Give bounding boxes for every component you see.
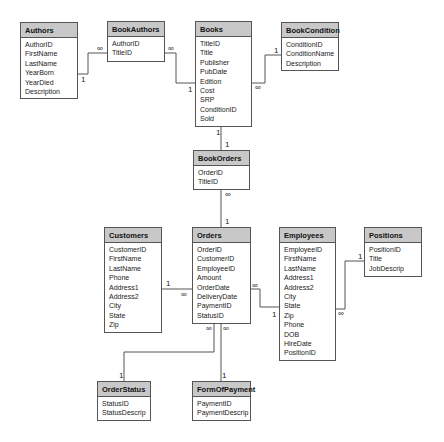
- cardinality-many: ∞: [338, 310, 344, 318]
- table-orders[interactable]: OrdersOrderIDCustomerIDEmployeeIDAmountO…: [192, 227, 251, 324]
- field: City: [109, 301, 157, 310]
- table-positions[interactable]: PositionsPositionIDTitleJobDescrip: [364, 227, 422, 277]
- link-authors-bookauthors: [78, 53, 107, 74]
- field: DeliveryDate: [197, 292, 246, 301]
- table-authors[interactable]: AuthorsAuthorIDFirstNameLastNameYearBorn…: [20, 22, 78, 99]
- field: Zip: [109, 320, 157, 329]
- table-fields: OrderIDCustomerIDEmployeeIDAmountOrderDa…: [193, 243, 250, 322]
- field: FirstName: [109, 254, 157, 263]
- table-header: BookAuthors: [108, 22, 164, 37]
- cardinality-one: 1: [222, 372, 226, 380]
- field: Title: [369, 254, 417, 263]
- cardinality-many: ∞: [252, 282, 258, 290]
- table-fields: AuthorIDTitleID: [108, 37, 164, 60]
- field: Address2: [284, 283, 331, 292]
- link-books-bookcondition: [252, 55, 281, 83]
- field: PositionID: [284, 348, 331, 357]
- table-fields: EmployeeIDFirstNameLastNameAddress1Addre…: [280, 243, 335, 360]
- field: OrderID: [198, 168, 245, 177]
- table-employees[interactable]: EmployeesEmployeeIDFirstNameLastNameAddr…: [279, 227, 336, 361]
- field: Title: [200, 48, 247, 57]
- field: StatusDescrip: [102, 408, 146, 417]
- table-bookauthors[interactable]: BookAuthorsAuthorIDTitleID: [107, 21, 165, 62]
- cardinality-one: 1: [119, 372, 123, 380]
- field: HireDate: [284, 339, 331, 348]
- field: AuthorID: [25, 40, 73, 49]
- field: State: [109, 311, 157, 320]
- field: OrderID: [197, 245, 246, 254]
- table-header: FormOfPayment: [193, 382, 250, 397]
- link-orders-employees: [251, 289, 279, 307]
- field: Address1: [284, 273, 331, 282]
- cardinality-many: ∞: [223, 325, 229, 333]
- cardinality-one: 1: [274, 47, 278, 55]
- table-fields: OrderIDTitleID: [194, 166, 249, 189]
- field: StatusID: [197, 311, 246, 320]
- cardinality-one: 1: [225, 218, 229, 226]
- cardinality-many: ∞: [255, 84, 261, 92]
- field: StatusID: [102, 399, 146, 408]
- field: ConditionID: [286, 40, 334, 49]
- table-customers[interactable]: CustomersCustomerIDFirstNameLastNamePhon…: [104, 227, 162, 333]
- table-bookcondition[interactable]: BookConditionConditionIDConditionNameDes…: [281, 22, 339, 71]
- field: State: [284, 301, 331, 310]
- field: YearBorn: [25, 68, 73, 77]
- field: Publisher: [200, 58, 247, 67]
- field: Phone: [284, 320, 331, 329]
- field: Description: [286, 59, 334, 68]
- table-header: Customers: [105, 228, 161, 243]
- table-fields: TitleIDTitlePublisherPubDateEditionCostS…: [196, 37, 251, 126]
- field: Address1: [109, 283, 157, 292]
- field: TitleID: [112, 48, 160, 57]
- table-formofpayment[interactable]: FormOfPaymentPaymentIDPaymentDescrip: [192, 381, 251, 421]
- field: TitleID: [198, 177, 245, 186]
- cardinality-one: 1: [216, 129, 220, 137]
- field: SRP: [200, 95, 247, 104]
- field: FirstName: [284, 254, 331, 263]
- cardinality-many: ∞: [206, 325, 212, 333]
- field: Description: [25, 87, 73, 96]
- table-header: BookOrders: [194, 151, 249, 166]
- field: YearDied: [25, 78, 73, 87]
- table-fields: CustomerIDFirstNameLastNamePhoneAddress1…: [105, 243, 161, 332]
- table-orderstatus[interactable]: OrderStatusStatusIDStatusDescrip: [97, 381, 151, 421]
- field: LastName: [284, 264, 331, 273]
- field: ConditionName: [286, 49, 334, 58]
- link-bookauthors-books: [165, 53, 195, 83]
- field: CustomerID: [197, 254, 246, 263]
- cardinality-many: ∞: [181, 291, 187, 299]
- table-header: BookCondition: [282, 23, 338, 38]
- table-fields: PositionIDTitleJobDescrip: [365, 243, 421, 275]
- table-header: Books: [196, 22, 251, 37]
- field: ConditionID: [200, 105, 247, 114]
- cardinality-many: ∞: [225, 191, 231, 199]
- field: Edition: [200, 77, 247, 86]
- field: PaymentID: [197, 399, 246, 408]
- field: City: [284, 292, 331, 301]
- field: Sold: [200, 114, 247, 123]
- cardinality-many: ∞: [97, 45, 103, 53]
- field: EmployeeID: [197, 264, 246, 273]
- table-header: Employees: [280, 228, 335, 243]
- field: FirstName: [25, 49, 73, 58]
- cardinality-one: 1: [272, 311, 276, 319]
- link-employees-positions: [336, 261, 364, 309]
- field: PaymentDescrip: [197, 408, 246, 417]
- field: PaymentID: [197, 301, 246, 310]
- cardinality-many: ∞: [168, 45, 174, 53]
- field: Cost: [200, 86, 247, 95]
- table-books[interactable]: BooksTitleIDTitlePublisherPubDateEdition…: [195, 21, 252, 127]
- field: JobDescrip: [369, 264, 417, 273]
- table-bookorders[interactable]: BookOrdersOrderIDTitleID: [193, 150, 250, 190]
- table-header: OrderStatus: [98, 382, 150, 397]
- table-header: Authors: [21, 23, 77, 38]
- field: AuthorID: [112, 39, 160, 48]
- cardinality-one: 1: [166, 280, 170, 288]
- field: TitleID: [200, 39, 247, 48]
- table-fields: PaymentIDPaymentDescrip: [193, 397, 250, 420]
- field: Zip: [284, 311, 331, 320]
- field: CustomerID: [109, 245, 157, 254]
- table-fields: ConditionIDConditionNameDescription: [282, 38, 338, 70]
- field: PositionID: [369, 245, 417, 254]
- cardinality-one: 1: [188, 86, 192, 94]
